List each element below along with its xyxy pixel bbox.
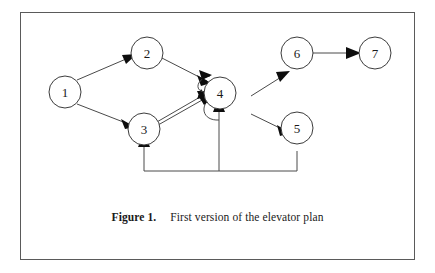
node-5-label: 5 xyxy=(294,121,301,136)
edge-1-to-2 xyxy=(77,54,137,80)
node-6-label: 6 xyxy=(294,46,301,61)
edge-4-to-6 xyxy=(251,71,290,96)
node-4[interactable]: 4 xyxy=(204,77,236,109)
figure-frame-border: 1 2 3 4 5 6 xyxy=(20,12,415,260)
edge-5-to-3-feedback xyxy=(138,133,297,171)
node-6[interactable]: 6 xyxy=(281,37,313,69)
edge-6-to-7 xyxy=(309,47,361,59)
node-7-label: 7 xyxy=(372,46,379,61)
figure-caption-label: Figure 1. xyxy=(112,211,157,223)
edge-2-to-4 xyxy=(158,56,211,86)
figure-page: 1 2 3 4 5 6 xyxy=(0,0,435,273)
node-2[interactable]: 2 xyxy=(131,37,163,69)
node-7[interactable]: 7 xyxy=(359,37,391,69)
node-5[interactable]: 5 xyxy=(281,112,313,144)
edge-1-to-3 xyxy=(77,104,135,129)
elevator-plan-graph: 1 2 3 4 5 6 xyxy=(21,13,416,213)
node-1-label: 1 xyxy=(62,85,69,100)
node-3[interactable]: 3 xyxy=(128,113,160,145)
node-4-label: 4 xyxy=(217,86,224,101)
node-2-label: 2 xyxy=(144,46,151,61)
node-3-label: 3 xyxy=(141,122,148,137)
figure-caption: Figure 1.First version of the elevator p… xyxy=(21,211,414,223)
figure-caption-text: First version of the elevator plan xyxy=(170,211,323,223)
node-1[interactable]: 1 xyxy=(49,76,81,108)
